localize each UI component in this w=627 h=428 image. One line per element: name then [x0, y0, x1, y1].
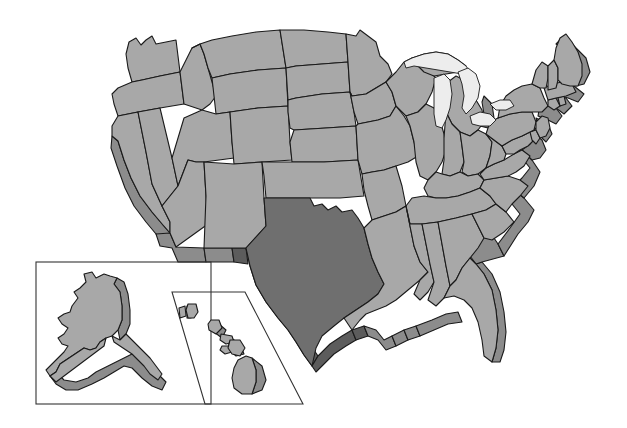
side-newmexico-texas-step — [232, 248, 248, 264]
state-oklahoma[interactable] — [262, 160, 364, 198]
side-louisiana — [364, 326, 396, 350]
state-maine[interactable] — [554, 34, 582, 86]
alaska-inset-group[interactable] — [36, 262, 211, 404]
state-texas[interactable] — [246, 198, 384, 366]
state-oregon[interactable] — [112, 72, 184, 116]
state-hawaii-bigisland[interactable] — [232, 356, 256, 394]
state-kansas[interactable] — [290, 126, 358, 162]
state-vermont[interactable] — [532, 62, 548, 88]
state-hawaii-niihau[interactable] — [179, 306, 186, 318]
map-container: United States Map Texas — [0, 0, 627, 428]
state-colorado[interactable] — [230, 106, 292, 164]
side-florida-panhandle — [416, 312, 462, 336]
united-states-map-svg[interactable] — [0, 0, 627, 428]
side-newmexico-bottom — [204, 248, 234, 262]
state-hawaii-kauai[interactable] — [186, 304, 198, 318]
state-newmexico[interactable] — [204, 162, 266, 248]
state-nebraska[interactable] — [288, 92, 356, 130]
